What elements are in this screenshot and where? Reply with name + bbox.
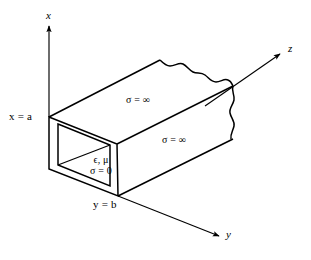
axis-z bbox=[205, 54, 280, 106]
x-axis-label: x bbox=[46, 10, 51, 22]
y-equals-b-label: y = b bbox=[93, 199, 117, 211]
interior-medium-label: ϵ, μ σ = 0 bbox=[79, 155, 123, 176]
waveguide-drawing bbox=[0, 0, 311, 260]
side-face-bottom-edge bbox=[118, 139, 233, 196]
side-face-torn-right-edge bbox=[230, 86, 234, 139]
sigma-infinity-top-label: σ = ∞ bbox=[126, 95, 150, 106]
axis-y bbox=[118, 196, 219, 236]
interior-medium-line1: ϵ, μ bbox=[93, 154, 108, 165]
y-axis-label: y bbox=[226, 229, 231, 241]
z-axis-label: z bbox=[288, 43, 292, 55]
sigma-infinity-side-label: σ = ∞ bbox=[162, 135, 186, 146]
y-axis-line bbox=[118, 196, 219, 236]
z-axis-line bbox=[205, 54, 280, 106]
interior-medium-line2: σ = 0 bbox=[79, 166, 123, 177]
x-equals-a-label: x = a bbox=[9, 111, 32, 123]
top-face-torn-back-edge bbox=[160, 60, 233, 86]
waveguide-figure: x y z x = a y = b σ = ∞ σ = ∞ ϵ, μ σ = 0 bbox=[0, 0, 311, 260]
top-face-left-edge bbox=[49, 60, 160, 117]
